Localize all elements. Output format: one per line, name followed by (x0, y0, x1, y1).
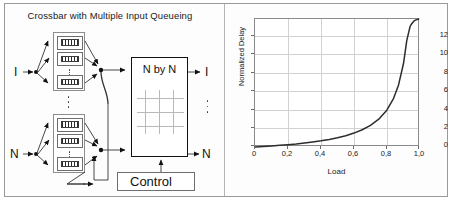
ytick-label: 6 (426, 86, 448, 94)
xtick-label: 0 (244, 150, 264, 158)
diagram-wires (5, 4, 224, 197)
xtick-label: 0,6 (343, 150, 363, 158)
figure-root: Crossbar with Multiple Input Queueing I … (0, 0, 454, 202)
ytick-label: 2 (426, 123, 448, 131)
xtick-label: 0,2 (277, 150, 297, 158)
xtick-label: 0,4 (310, 150, 330, 158)
ytick-mark (251, 72, 254, 73)
panel-divider (224, 4, 225, 196)
xtick-label: 1,0 (409, 150, 429, 158)
ytick-label: 0 (426, 141, 448, 149)
delay-chart-panel: 0 2 4 6 8 10 12 0 0,2 0,4 0,6 0,8 1,0 Lo… (226, 4, 448, 197)
xaxis-title: Load (254, 167, 419, 176)
ytick-label: 4 (426, 105, 448, 113)
plot-area (254, 18, 419, 146)
ytick-mark (251, 53, 254, 54)
ytick-mark (251, 90, 254, 91)
delay-curve (255, 19, 420, 147)
yaxis-title: Normalized Delay (237, 9, 246, 105)
ytick-mark (251, 127, 254, 128)
crossbar-diagram-panel: Crossbar with Multiple Input Queueing I … (5, 4, 224, 197)
ytick-label: 12 (426, 31, 448, 39)
ytick-mark (251, 109, 254, 110)
ytick-label: 10 (426, 49, 448, 57)
xtick-label: 0,8 (376, 150, 396, 158)
ytick-mark (251, 35, 254, 36)
ytick-label: 8 (426, 68, 448, 76)
